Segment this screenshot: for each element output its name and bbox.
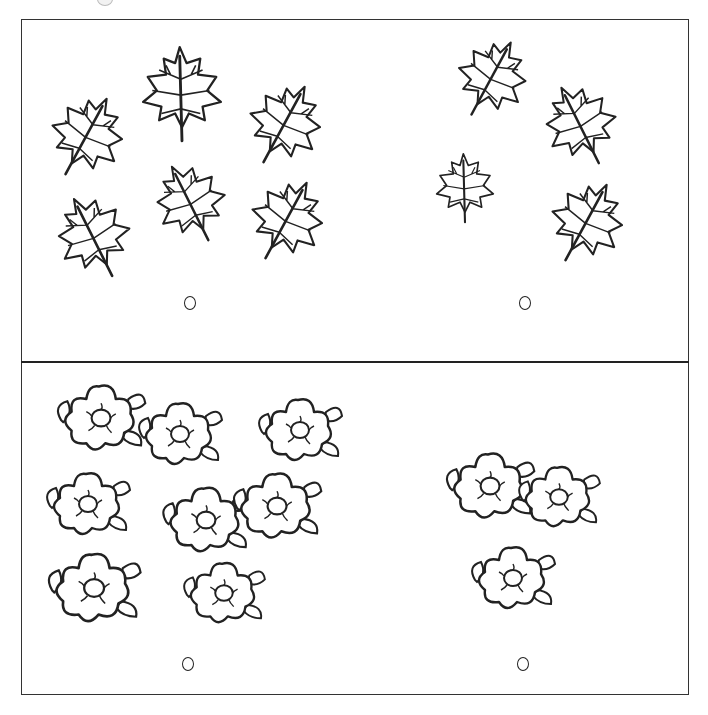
maple-leaf-icon [240,80,330,170]
maple-leaf-icon [430,136,500,240]
answer-circle-leaves-left[interactable] [184,296,196,310]
maple-leaf-icon [538,80,624,170]
flower-icon [460,540,564,616]
flower-icon [176,556,270,630]
flower-icon [216,466,336,546]
maple-leaf-icon [450,34,534,124]
section-divider [21,361,689,363]
flower-icon [506,460,610,534]
maple-leaf-icon [42,92,132,182]
maple-leaf-icon [542,178,632,268]
answer-circle-flowers-left[interactable] [182,657,194,671]
answer-circle-leaves-right[interactable] [519,296,531,310]
maple-leaf-icon [50,192,138,282]
maple-leaf-icon [148,160,234,246]
flower-icon [42,466,132,542]
flower-icon [134,396,224,472]
flower-icon [254,392,344,468]
flower-icon [28,546,158,630]
maple-leaf-icon [242,176,332,266]
answer-circle-flowers-right[interactable] [517,657,529,671]
page-tab-mark [97,0,113,6]
maple-leaf-icon [134,42,230,146]
